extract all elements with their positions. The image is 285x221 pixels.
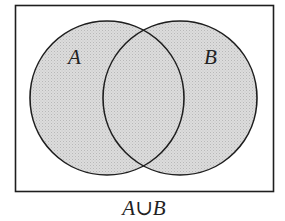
- set-b-label: B: [204, 45, 217, 69]
- caption: A∪B: [120, 196, 165, 220]
- venn-diagram: A B A∪B: [0, 0, 285, 221]
- caption-union-symbol: ∪: [135, 196, 153, 220]
- caption-b: B: [153, 196, 166, 220]
- set-a-label: A: [66, 45, 81, 69]
- caption-a: A: [120, 196, 135, 220]
